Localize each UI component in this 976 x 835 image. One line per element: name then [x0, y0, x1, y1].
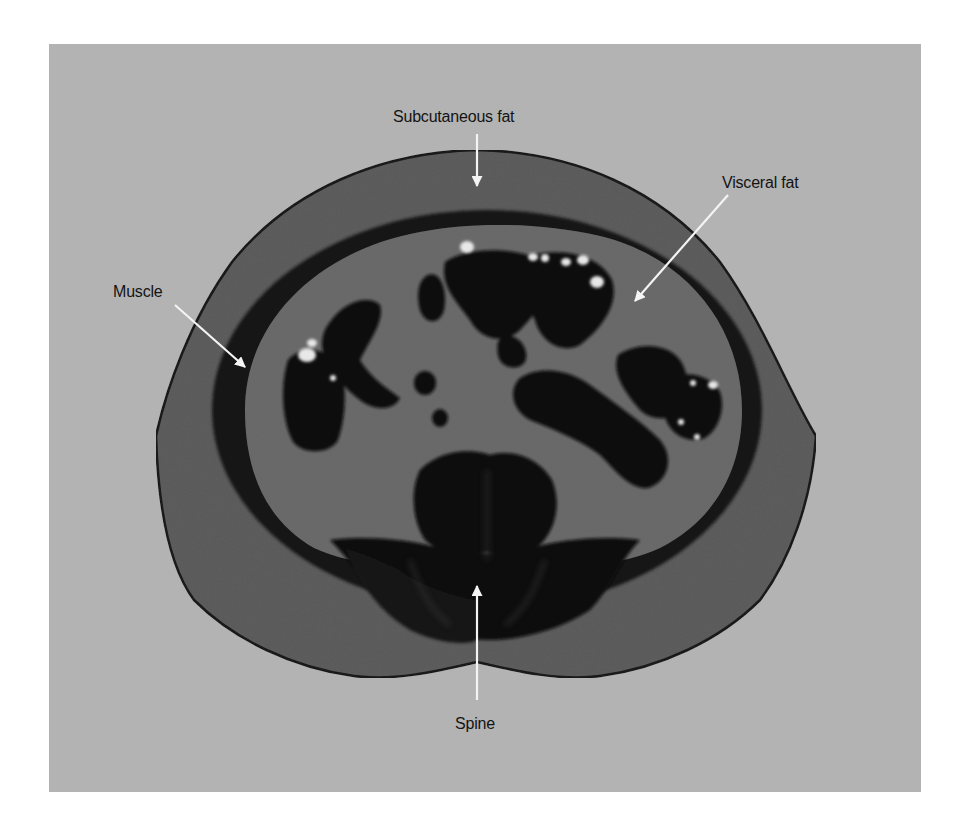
label-subcutaneous-fat: Subcutaneous fat: [393, 108, 514, 126]
label-visceral-fat: Visceral fat: [722, 174, 798, 192]
label-spine: Spine: [455, 715, 495, 733]
label-muscle: Muscle: [113, 283, 162, 301]
